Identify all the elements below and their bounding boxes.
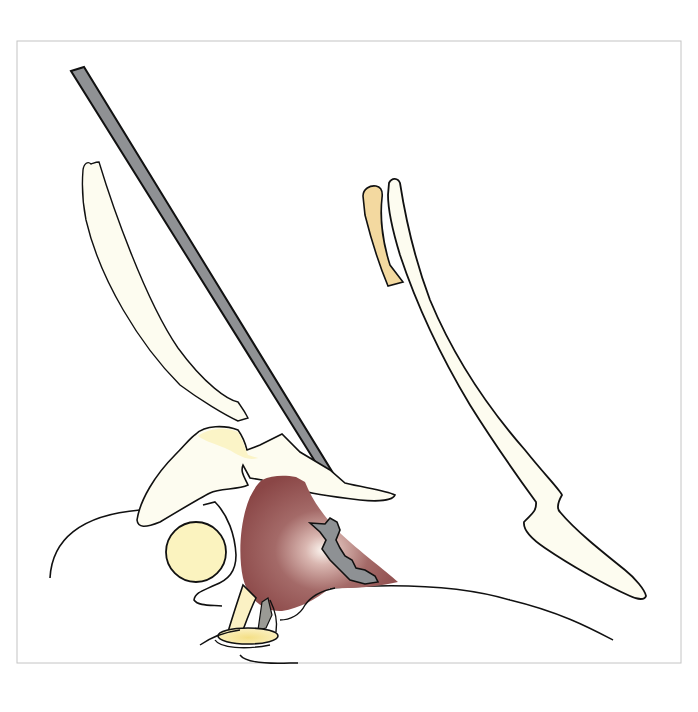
round-structure bbox=[166, 522, 226, 582]
base-ellipse bbox=[218, 628, 278, 644]
diagram-stage bbox=[0, 0, 698, 712]
illustration-canvas bbox=[0, 0, 698, 712]
